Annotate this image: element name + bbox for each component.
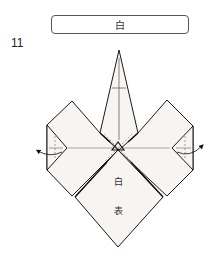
face-label-front: 表 xyxy=(114,204,123,217)
top-point xyxy=(100,50,138,150)
origami-diagram xyxy=(0,0,216,261)
face-label-white: 白 xyxy=(114,175,123,188)
